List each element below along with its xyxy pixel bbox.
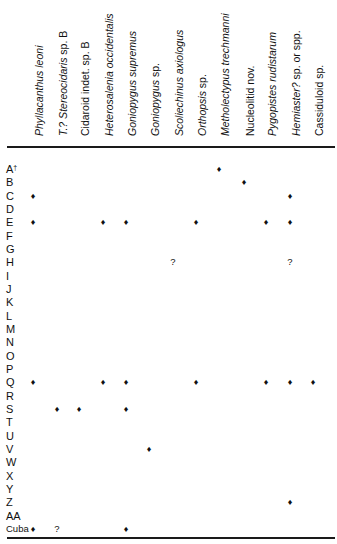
diamond-occurrence-icon: ♦	[27, 377, 39, 387]
row-label: Y	[6, 483, 13, 495]
row-label-text: Q	[6, 376, 15, 388]
header-text-part: Scoliechinus axiologus	[173, 30, 185, 136]
diamond-occurrence-icon: ♦	[120, 377, 132, 387]
column-header-goniopygus-sp: Goniopygus sp.	[142, 0, 156, 140]
row-label: X	[6, 470, 13, 482]
column-header-stereocidaris: T.? Stereocidaris sp. B	[50, 0, 64, 140]
row-label-text: J	[6, 283, 12, 295]
row-label-text: X	[6, 470, 13, 482]
row-label: W	[6, 456, 16, 468]
column-header-orthopsis: Orthopsis sp.	[189, 0, 203, 140]
header-text-part: Phyllacanthus leoni	[33, 46, 45, 136]
row-label: Z	[6, 496, 13, 508]
row-label: K	[6, 296, 13, 308]
diamond-occurrence-icon: ♦	[213, 164, 225, 174]
diamond-occurrence-icon: ♦	[190, 217, 202, 227]
header-text-part: Cidaroid indet. sp. B	[79, 41, 91, 136]
diamond-occurrence-icon: ♦	[27, 191, 39, 201]
row-label-text: C	[6, 190, 14, 202]
header-text-part: Heterosalenia occidentalis	[103, 13, 115, 136]
row-label: U	[6, 430, 14, 442]
column-header-phyllacanthus: Phyllacanthus leoni	[26, 0, 40, 140]
row-label-text: E	[6, 216, 13, 228]
diamond-occurrence-icon: ♦	[284, 377, 296, 387]
diamond-occurrence-icon: ♦	[284, 217, 296, 227]
row-label: A†	[6, 163, 17, 175]
header-rule	[7, 146, 335, 148]
column-header-metholectypus: Metholectypus trechmanni	[212, 0, 226, 140]
row-label-text: Z	[6, 496, 13, 508]
row-label: F	[6, 230, 13, 242]
header-text-part: sp.	[149, 63, 161, 80]
diamond-occurrence-icon: ♦	[97, 377, 109, 387]
row-label: E	[6, 216, 13, 228]
row-label-text: B	[6, 176, 13, 188]
row-label-text: N	[6, 336, 14, 348]
row-label: D	[6, 203, 14, 215]
row-label-text: I	[6, 270, 9, 282]
row-label: M	[6, 323, 15, 335]
column-header-cidaroid: Cidaroid indet. sp. B	[72, 0, 86, 140]
row-label-text: F	[6, 230, 13, 242]
header-text-part: Metholectypus trechmanni	[219, 13, 231, 136]
diamond-occurrence-icon: ♦	[120, 217, 132, 227]
row-label: I	[6, 270, 9, 282]
diamond-occurrence-icon: ♦	[120, 524, 132, 534]
row-label: Cuba	[6, 523, 29, 535]
header-text-part: sp. or spp.	[290, 30, 302, 82]
header-text-part: Hemiaster?	[290, 82, 302, 136]
row-label-text: W	[6, 456, 16, 468]
header-text-part: sp.	[196, 74, 208, 91]
header-text-part: Goniopygus	[149, 80, 161, 136]
row-label: L	[6, 310, 12, 322]
row-label: H	[6, 256, 14, 268]
row-label-text: Y	[6, 483, 13, 495]
column-header-goniopygus-supremus: Goniopygus supremus	[119, 0, 133, 140]
row-label: S	[6, 403, 13, 415]
column-header-hemiaster: Hemiaster? sp. or spp.	[283, 0, 297, 140]
diamond-occurrence-icon: ♦	[284, 497, 296, 507]
diamond-occurrence-icon: ♦	[27, 524, 39, 534]
row-label: J	[6, 283, 12, 295]
row-label-text: AA	[6, 510, 21, 522]
column-header-pygopistes: Pygopistes rudistarum	[259, 0, 273, 140]
diamond-occurrence-icon: ♦	[27, 217, 39, 227]
diamond-occurrence-icon: ♦	[120, 404, 132, 414]
row-label: P	[6, 363, 13, 375]
row-label-text: D	[6, 203, 14, 215]
column-header-scoliechinus: Scoliechinus axiologus	[166, 0, 180, 140]
uncertain-occurrence-mark: ?	[51, 524, 63, 534]
diamond-occurrence-icon: ♦	[143, 444, 155, 454]
header-text-part: Orthopsis	[196, 91, 208, 136]
diamond-occurrence-icon: ♦	[238, 177, 250, 187]
row-label: R	[6, 390, 14, 402]
header-text-part: Nucleolitid nov.	[244, 66, 256, 136]
diamond-occurrence-icon: ♦	[97, 217, 109, 227]
row-label: B	[6, 176, 13, 188]
diamond-occurrence-icon: ♦	[51, 404, 63, 414]
bottom-rule	[7, 537, 335, 539]
row-label-text: L	[6, 310, 12, 322]
diamond-occurrence-icon: ♦	[260, 217, 272, 227]
row-label: T	[6, 416, 13, 428]
row-label: C	[6, 190, 14, 202]
row-label: G	[6, 243, 15, 255]
row-label-text: R	[6, 390, 14, 402]
column-header-cassiduloid: Cassiduloid sp.	[306, 0, 320, 140]
row-label-text: K	[6, 296, 13, 308]
row-label-text: T	[6, 416, 13, 428]
row-label-text: U	[6, 430, 14, 442]
dagger-footnote-mark: †	[13, 164, 17, 171]
row-label: AA	[6, 510, 21, 522]
header-text-part: Goniopygus supremus	[126, 31, 138, 136]
header-text-part: Pygopistes rudistarum	[266, 32, 278, 136]
diamond-occurrence-icon: ♦	[260, 377, 272, 387]
diamond-occurrence-icon: ♦	[190, 377, 202, 387]
row-label-text: O	[6, 350, 15, 362]
row-label: N	[6, 336, 14, 348]
row-label-text: V	[6, 443, 13, 455]
diamond-occurrence-icon: ♦	[73, 404, 85, 414]
row-label: Q	[6, 376, 15, 388]
uncertain-occurrence-mark: ?	[284, 257, 296, 267]
column-header-heterosalenia: Heterosalenia occidentalis	[96, 0, 110, 140]
